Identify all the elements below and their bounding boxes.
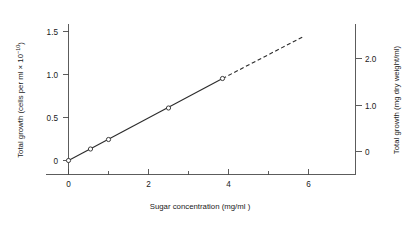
chart-figure: 0 0.5 1.0 1.5 Total growth (cells per ml… <box>0 0 411 227</box>
y-right-ticklabel-2: 2.0 <box>365 55 377 64</box>
data-point-marker <box>106 137 110 141</box>
y-left-axis-title-exponent: −10 <box>15 45 21 54</box>
data-point-marker <box>166 106 170 110</box>
y-left-ticklabel-3: 1.5 <box>47 28 59 37</box>
y-left-axis-title-main: Total growth (cells per ml × 10 <box>16 53 25 157</box>
data-point-marker <box>220 76 224 80</box>
fit-line-dashed-extrapolation <box>223 36 305 79</box>
x-axis: 0 2 4 6 Sugar concentration (mg/ml ) <box>46 169 356 212</box>
y-left-axis-title-group: Total growth (cells per ml × 10−10) <box>15 42 25 158</box>
y-left-ticklabel-2: 1.0 <box>47 71 59 80</box>
y-left-axis-title: Total growth (cells per ml × 10−10) <box>15 42 25 158</box>
data-point-marker <box>66 158 70 162</box>
x-ticklabel-1: 2 <box>146 180 151 189</box>
y-right-axis-title-group: Total growth (mg dry weight/ml) <box>392 45 401 154</box>
x-ticklabel-0: 0 <box>66 180 71 189</box>
y-right-axis: 0 1.0 2.0 Total growth (mg dry weight/ml… <box>356 24 402 174</box>
y-right-ticklabel-1: 1.0 <box>365 102 377 111</box>
y-left-ticklabel-1: 0.5 <box>47 114 59 123</box>
y-right-ticklabel-0: 0 <box>365 148 370 157</box>
y-left-ticklabel-0: 0 <box>53 157 58 166</box>
chart-canvas: 0 0.5 1.0 1.5 Total growth (cells per ml… <box>0 0 411 227</box>
data-point-marker <box>88 147 92 151</box>
x-ticklabel-3: 6 <box>306 180 311 189</box>
y-right-axis-title: Total growth (mg dry weight/ml) <box>392 45 401 154</box>
y-left-axis: 0 0.5 1.0 1.5 Total growth (cells per ml… <box>15 24 69 174</box>
x-axis-title: Sugar concentration (mg/ml ) <box>150 202 251 211</box>
data-series <box>66 36 304 163</box>
y-left-axis-title-tail: ) <box>16 42 25 45</box>
x-ticklabel-2: 4 <box>226 180 231 189</box>
